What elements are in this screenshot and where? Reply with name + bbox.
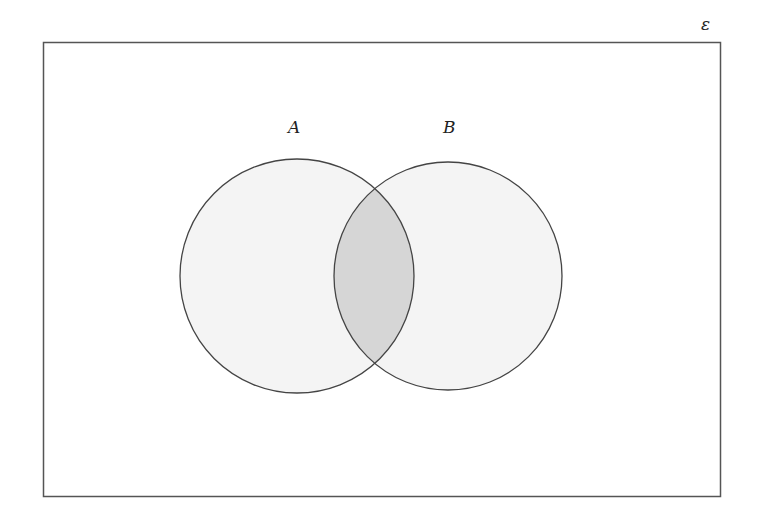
set-b-label: B [442, 117, 456, 137]
universal-set-label: ε [701, 14, 710, 34]
venn-diagram: ε A B [0, 0, 760, 519]
set-a-label: A [286, 117, 300, 137]
